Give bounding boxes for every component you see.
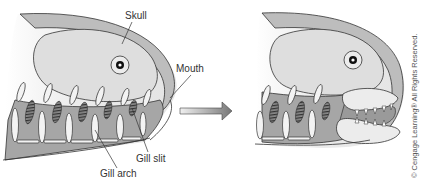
label-skull: Skull bbox=[125, 10, 147, 21]
jawed-fish-head bbox=[255, 13, 404, 148]
label-mouth: Mouth bbox=[176, 63, 204, 74]
label-gill-arch: Gill arch bbox=[100, 168, 137, 179]
jaw-evolution-diagram: Skull Mouth Gill slit Gill arch © Cengag… bbox=[0, 0, 424, 183]
copyright-notice: © Cengage Learning® All Rights Reserved. bbox=[410, 34, 419, 178]
jawless-fish-head bbox=[3, 13, 191, 168]
label-gill-slit: Gill slit bbox=[136, 153, 165, 164]
transition-arrow-icon bbox=[180, 102, 232, 120]
diagram-canvas bbox=[0, 0, 424, 183]
